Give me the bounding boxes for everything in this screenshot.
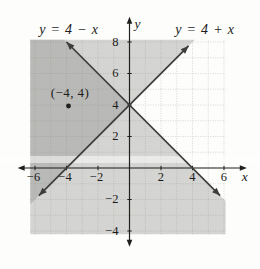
y-axis-variable-label: y bbox=[133, 16, 141, 31]
x-tick-label: −2 bbox=[89, 170, 103, 184]
x-tick-label: 2 bbox=[158, 170, 165, 184]
x-tick-label: −4 bbox=[58, 170, 72, 184]
x-tick-label: 4 bbox=[189, 170, 196, 184]
coordinate-plane: −6−4−22468642−2−4xyy = 4 − xy = 4 + x(−4… bbox=[0, 0, 260, 269]
y-tick-label: −4 bbox=[105, 224, 119, 238]
plotted-point bbox=[66, 104, 71, 109]
y-tick-label: −2 bbox=[105, 192, 119, 206]
graph-figure: −6−4−22468642−2−4xyy = 4 − xy = 4 + x(−4… bbox=[0, 0, 260, 269]
y-tick-label: 6 bbox=[112, 66, 119, 80]
equation-label-0: y = 4 − x bbox=[37, 22, 99, 37]
x-tick-label: −6 bbox=[26, 170, 40, 184]
y-tick-label: 4 bbox=[112, 98, 119, 112]
x-tick-label: 6 bbox=[221, 170, 228, 184]
y-tick-label: 8 bbox=[112, 35, 119, 49]
equation-label-1: y = 4 + x bbox=[173, 22, 235, 37]
point-label: (−4, 4) bbox=[51, 85, 89, 100]
x-axis-variable-label: x bbox=[241, 169, 248, 184]
y-tick-label: 2 bbox=[112, 129, 119, 143]
